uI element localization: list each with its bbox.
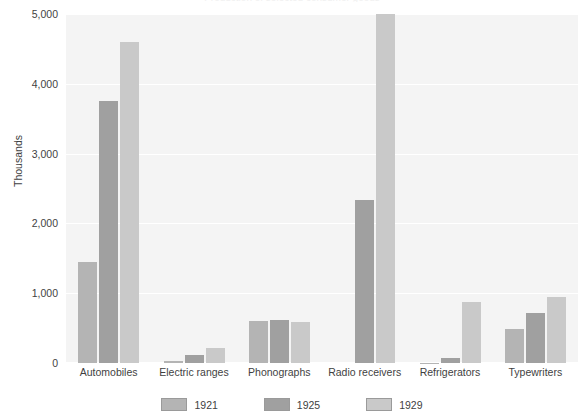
plot-area [66,14,578,363]
legend-swatch-icon [366,398,392,411]
y-axis-tick-labels: 01,0002,0003,0004,0005,000 [0,14,58,363]
legend-item-1921[interactable]: 1921 [161,398,217,411]
legend-label: 1921 [194,399,217,411]
y-tick-label: 2,000 [0,218,58,228]
legend-label: 1925 [297,399,320,411]
x-tick-label-electric-ranges: Electric ranges [151,366,236,378]
legend-swatch-icon [161,398,187,411]
bar [164,361,183,363]
legend-item-1929[interactable]: 1929 [366,398,422,411]
x-tick-label-automobiles: Automobiles [66,366,151,378]
bar [547,297,566,363]
bar [441,358,460,363]
bar [185,355,204,363]
y-tick-label: 5,000 [0,9,58,19]
chart-title: Production of selected consumer goods [0,0,584,2]
gridline-3000 [66,154,578,155]
bar-group [334,14,395,363]
y-tick-label: 1,000 [0,288,58,298]
x-tick-label-radio-receivers: Radio receivers [322,366,407,378]
chart-legend: 192119251929 [0,398,584,411]
bar [355,200,374,363]
bar [99,101,118,363]
bar [505,329,524,363]
gridline-2000 [66,223,578,224]
bar-group [420,14,481,363]
gridline-5000 [66,14,578,15]
bar [206,348,225,363]
x-tick-label-refrigerators: Refrigerators [407,366,492,378]
y-tick-label: 4,000 [0,79,58,89]
y-tick-label: 3,000 [0,149,58,159]
legend-item-1925[interactable]: 1925 [264,398,320,411]
bar [249,321,268,363]
bar [376,14,395,363]
bar [291,322,310,363]
bar-group [78,14,139,363]
bar [462,302,481,363]
gridline-0 [66,362,578,363]
bar-group [164,14,225,363]
x-tick-label-phonographs: Phonographs [237,366,322,378]
bar [120,42,139,363]
bar-group [505,14,566,363]
legend-swatch-icon [264,398,290,411]
bar-chart: Production of selected consumer goods Th… [0,0,584,420]
x-tick-label-typewriters: Typewriters [493,366,578,378]
bar [78,262,97,363]
gridline-4000 [66,84,578,85]
bar [526,313,545,363]
bar-group [249,14,310,363]
gridline-1000 [66,293,578,294]
bar [270,320,289,363]
y-tick-label: 0 [0,358,58,368]
legend-label: 1929 [399,399,422,411]
